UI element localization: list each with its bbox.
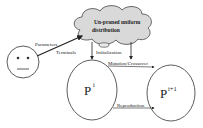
cloud-label-line2: distribution xyxy=(92,27,120,33)
node-next-base: P xyxy=(160,86,167,101)
population-node-current xyxy=(67,60,117,120)
reproduction-label: Reproduction xyxy=(117,103,145,108)
mutation-arrow xyxy=(108,66,154,67)
node-current-sup: i xyxy=(93,81,95,88)
parameters-label: Parameters xyxy=(35,42,57,47)
neutral-face-icon xyxy=(7,46,39,78)
diagram-canvas: Un-praned uniform distribution Parameter… xyxy=(0,0,203,128)
terminals-label: Terminals xyxy=(56,50,76,55)
initialization-label: Initialization xyxy=(96,50,122,55)
mutation-label: Mutation/Crossover xyxy=(108,61,148,66)
initialization-marker-icon xyxy=(99,43,109,47)
node-next-sup: i+1 xyxy=(168,85,177,92)
cloud-label-line1: Un-praned uniform xyxy=(94,19,141,25)
cloud-shape xyxy=(74,6,151,45)
node-current-base: P xyxy=(84,83,91,98)
population-node-next xyxy=(147,65,195,121)
